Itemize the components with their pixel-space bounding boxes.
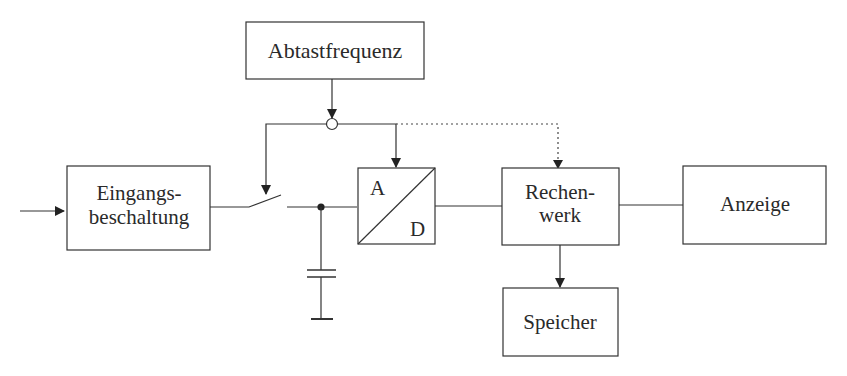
ad-converter-block: A D bbox=[358, 168, 435, 244]
rechenwerk-label-line2: werk bbox=[539, 203, 581, 227]
eingangsbeschaltung-block: Eingangs- beschaltung bbox=[67, 166, 210, 250]
speicher-block: Speicher bbox=[503, 288, 618, 356]
clock-junction bbox=[327, 119, 338, 130]
eingangsbeschaltung-label-line2: beschaltung bbox=[89, 205, 190, 229]
switch-control-arrow bbox=[266, 124, 326, 194]
speicher-label: Speicher bbox=[523, 310, 596, 334]
rechenwerk-label-line1: Rechen- bbox=[525, 180, 595, 204]
anzeige-block: Anzeige bbox=[683, 166, 826, 244]
abtastfrequenz-label: Abtastfrequenz bbox=[268, 38, 403, 63]
adc-control-arrow bbox=[338, 124, 396, 167]
ad-label-a: A bbox=[370, 176, 386, 200]
anzeige-label: Anzeige bbox=[720, 192, 790, 216]
eingangsbeschaltung-label-line1: Eingangs- bbox=[96, 181, 181, 205]
sample-switch bbox=[210, 195, 281, 207]
ad-label-d: D bbox=[410, 217, 425, 241]
abtastfrequenz-block: Abtastfrequenz bbox=[246, 22, 424, 79]
block-diagram: Abtastfrequenz Eingangs- beschaltung A D… bbox=[0, 0, 847, 376]
rechenwerk-control-dotted bbox=[396, 124, 558, 167]
rechenwerk-block: Rechen- werk bbox=[502, 168, 619, 245]
